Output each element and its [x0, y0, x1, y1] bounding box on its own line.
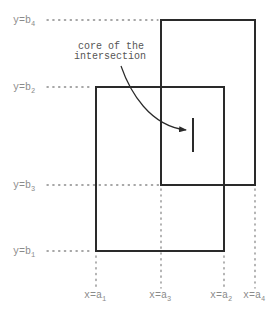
annotation-arrow — [121, 66, 186, 130]
label-y-b1: y=b1 — [13, 246, 35, 259]
label-x-a3: x=a3 — [149, 290, 171, 303]
label-y-b4: y=b4 — [13, 15, 35, 28]
rectangle-2 — [161, 20, 255, 185]
label-x-a4: x=a4 — [243, 290, 265, 303]
annotation-line-2: intersection — [74, 51, 146, 62]
label-x-a2: x=a2 — [210, 290, 232, 303]
label-y-b3: y=b3 — [13, 180, 35, 193]
label-y-b2: y=b2 — [13, 82, 35, 95]
intersection-diagram: core of the intersection y=b4 y=b2 y=b3 … — [0, 0, 274, 318]
label-x-a1: x=a1 — [84, 290, 106, 303]
